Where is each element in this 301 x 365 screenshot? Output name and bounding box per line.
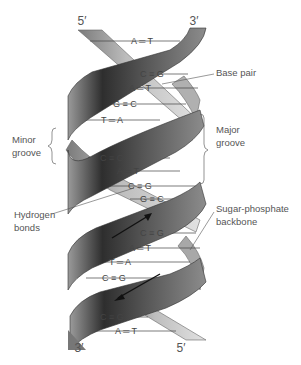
base-pair-6: C ≡ G [100,153,124,163]
minor-groove-bracket [48,128,56,164]
base-pair-15: A ═ T [115,326,138,336]
base-pair-label: Base pair [216,67,256,78]
minor-groove-label-line2: groove [12,147,41,158]
bottom-right-5prime-label: 5′ [177,341,187,355]
base-pair-5: T ═ A [101,115,123,125]
base-pair-12: T ═ A [109,257,131,267]
hydrogen-bonds-label-line1: Hydrogen [14,209,55,220]
base-pair-1: A ═ T [131,36,154,46]
base-pair-8: C ≡ G [128,181,152,191]
hydrogen-bonds-label-line2: bonds [14,222,40,233]
base-pair-9: G ≡ C [140,194,164,204]
major-groove-label-line1: Major [216,124,240,135]
minor-groove-label-line1: Minor [12,134,36,145]
base-pair-14: C ≡ G [100,312,124,322]
base-pair-2: C ≡ G [140,69,164,79]
top-right-3prime-label: 3′ [190,14,200,28]
base-pair-4: G ≡ C [113,99,137,109]
base-pair-3: A ═ T [129,83,152,93]
base-pair-11: A ═ T [129,243,152,253]
backbone-label-line1: Sugar-phosphate [216,203,289,214]
base-pair-10: C ≡ G [140,228,164,238]
bottom-left-3prime-label: 3′ [75,341,85,355]
backbone-label-line2: backbone [216,216,257,227]
major-groove-label-line2: groove [216,137,245,148]
top-left-5prime-label: 5′ [78,14,88,28]
dna-double-helix-diagram: A ═ T C ≡ G A ═ T G ≡ C T ═ A C ≡ G A ═ … [0,0,301,365]
base-pair-13: C ≡ G [102,273,126,283]
base-pair-7: A ═ T [117,166,140,176]
